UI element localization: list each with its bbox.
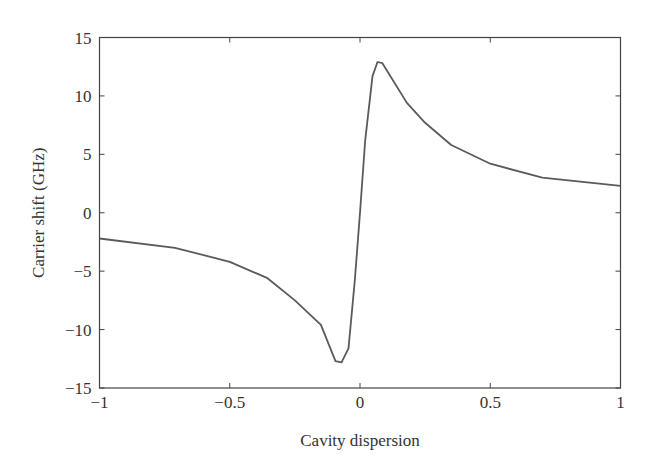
y-tick-label: −10 (65, 321, 92, 340)
x-tick-labels: −1−0.500.51 (90, 393, 624, 412)
x-tick-label: 0.5 (480, 393, 501, 412)
x-tick-label: 0 (356, 393, 365, 412)
x-tick-label: −0.5 (214, 393, 245, 412)
y-tick-label: 10 (75, 87, 92, 106)
line-chart: −1−0.500.51 151050−5−10−15 Cavity disper… (0, 0, 647, 463)
y-tick-labels: 151050−5−10−15 (65, 29, 92, 399)
x-axis-label: Cavity dispersion (300, 431, 420, 450)
x-tick-label: 1 (616, 393, 625, 412)
y-axis-label: Carrier shift (GHz) (29, 148, 48, 278)
y-tick-label: 0 (83, 204, 92, 223)
y-tick-label: −5 (73, 262, 91, 281)
plot-area (100, 62, 621, 362)
y-tick-label: 15 (75, 29, 92, 48)
x-tick-label: −1 (90, 393, 108, 412)
y-tick-label: 5 (83, 145, 92, 164)
y-tick-label: −15 (65, 379, 92, 398)
data-line (100, 62, 621, 362)
